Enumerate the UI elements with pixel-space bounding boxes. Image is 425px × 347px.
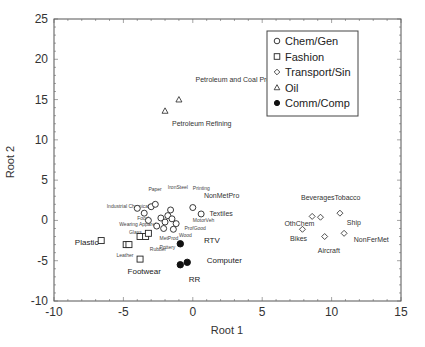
y-tick-label: 20 [35,52,49,66]
open-circle-marker [190,205,196,211]
x-tick-label: -5 [118,305,129,319]
point-label: Textiles [209,210,233,217]
y-tick-label: 5 [41,173,48,187]
point-label: Rubber [150,246,167,252]
open-circle-marker [162,219,168,225]
open-square-marker [274,54,280,60]
point-label: ProfGood [184,225,206,231]
open-square-marker [137,234,143,240]
legend-item: Transport/Sin [274,66,350,78]
legend-label: Fashion [285,51,324,63]
open-circle-marker [170,226,176,232]
point-label: Ship [347,219,361,227]
point-label: Footwear [128,267,162,276]
x-tick-label: 5 [259,305,266,319]
x-tick-label: 10 [325,305,339,319]
point-label: Aircraft [318,247,340,254]
y-tick-labels: 2520151050-5-10 [31,12,49,308]
open-circle-marker [134,205,140,211]
legend-label: Comm/Comp [285,97,350,109]
point-label: Beverages [301,194,335,202]
open-circle-marker [161,225,167,231]
legend-label: Transport/Sin [285,66,351,78]
point-label: Bikes [290,235,308,242]
point-label: Computer [207,256,242,265]
open-square-marker [126,242,132,248]
point-label: MetProd [159,235,178,241]
point-label: Printing [193,185,210,191]
open-square-marker [137,256,143,262]
open-circle-marker [173,221,179,227]
y-tick-label: 25 [35,12,49,26]
y-axis-label: Root 2 [4,146,16,178]
point-label: MotorVeh [193,217,215,223]
point-label: RR [189,275,201,284]
point-label: NonFerMet [354,236,389,243]
point-label: Tobacco [334,194,360,201]
point-label: IronSteel [168,184,188,190]
point-label: Wood [179,232,192,238]
filled-circle-marker [274,100,279,105]
open-circle-marker [154,223,160,229]
point-label: OthChem [284,220,314,227]
open-circle-marker [141,210,147,216]
point-label: NonMetPro [204,192,240,199]
open-circle-marker [145,217,151,223]
legend-item: Comm/Comp [274,97,349,109]
open-circle-marker [198,211,204,217]
scatter-chart: 2520151050-5-10 -10-5051015 Root 1 Root … [0,0,425,347]
y-tick-label: 0 [41,213,48,227]
y-tick-label: -5 [37,254,48,268]
legend: Chem/GenFashionTransport/SinOilComm/Comp [267,31,358,116]
open-square-marker [145,230,151,236]
legend-label: Oil [285,82,298,94]
x-axis-label: Root 1 [211,324,243,336]
x-tick-label: 15 [394,305,408,319]
filled-circle-marker [177,262,183,268]
open-circle-marker [152,201,158,207]
point-label: Leather [116,252,133,258]
point-label: RTV [204,236,221,245]
point-label: Paper [148,186,162,192]
open-circle-marker [274,38,280,44]
point-label: Plastic [75,238,99,247]
open-square-marker [98,238,104,244]
point-label: Petroleum Refining [172,120,232,128]
y-tick-label: 15 [35,93,49,107]
x-tick-label: 0 [189,305,196,319]
legend-label: Chem/Gen [285,35,338,47]
open-circle-marker [168,207,174,213]
x-tick-label: -10 [45,305,63,319]
filled-circle-marker [184,259,190,265]
y-tick-label: 10 [35,133,49,147]
x-tick-labels: -10-5051015 [45,305,408,319]
filled-circle-marker [177,241,183,247]
point-label: Industrial Chemicals [107,203,153,209]
